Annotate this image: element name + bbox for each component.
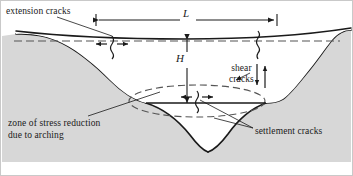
label-extension-cracks: extension cracks (6, 6, 71, 17)
label-settlement-cracks: settlement cracks (255, 126, 322, 137)
label-zone-of-stress-reduction: zone of stress reduction due to arching (8, 118, 100, 141)
figure-root: extension cracks shear cracks settlement… (0, 0, 353, 176)
label-dimension-H: H (176, 53, 184, 64)
label-dimension-L: L (183, 8, 189, 19)
cross-section-drawing (0, 0, 353, 176)
label-shear-cracks: shear cracks (229, 63, 254, 85)
